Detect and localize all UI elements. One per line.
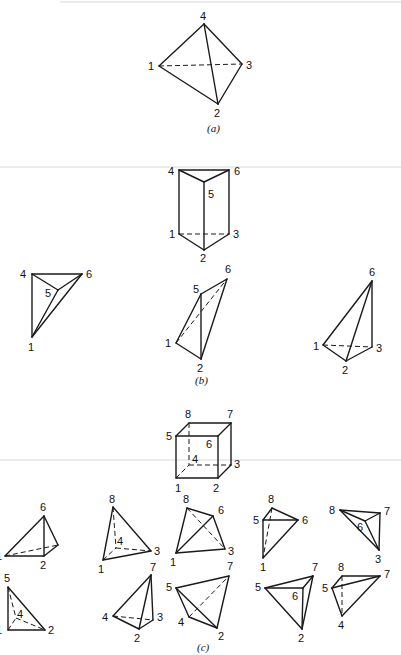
- tetra-c1-4: 8 5 6 1: [253, 493, 308, 573]
- node-label: 8: [338, 561, 344, 573]
- node-label: 6: [302, 514, 308, 526]
- node-label: 3: [233, 228, 239, 240]
- node-label: 4: [200, 10, 206, 22]
- tetra-c2-2: 7 4 3 2: [102, 561, 163, 644]
- node-label: 8: [183, 493, 189, 505]
- node-label: 5: [45, 287, 51, 299]
- prism-b: 4 6 5 1 3 2: [168, 165, 240, 264]
- node-label: 4: [338, 619, 344, 631]
- node-label: 4: [178, 616, 184, 628]
- node-label: 5: [4, 572, 10, 584]
- node-label: 2: [200, 252, 206, 264]
- node-label: 8: [109, 493, 115, 505]
- node-label: 3: [234, 458, 240, 470]
- node-label: 2: [298, 632, 304, 644]
- node-label: 2: [197, 362, 203, 374]
- node-label: 5: [255, 581, 261, 593]
- node-label: 3: [376, 342, 382, 354]
- node-label: 6: [86, 268, 92, 280]
- node-label: 1: [175, 482, 181, 494]
- tetra-c2-3: 7 5 4 2 (c): [166, 560, 233, 654]
- node-label: 2: [213, 482, 219, 494]
- node-label: 1: [0, 550, 2, 562]
- node-label: 4: [168, 165, 174, 177]
- node-label: 5: [208, 188, 214, 200]
- node-label: 1: [165, 337, 171, 349]
- node-label: 1: [0, 624, 2, 636]
- cube-c: 8 7 5 6 4 3 1 2: [166, 408, 240, 494]
- node-label: 5: [166, 581, 172, 593]
- node-label: 1: [28, 341, 34, 353]
- node-label: 6: [369, 266, 375, 278]
- node-label: 1: [313, 340, 319, 352]
- finite-element-decomposition-diagram: 4 1 3 2 (a) 4 6 5 1 3 2 4 6 5 1: [0, 0, 401, 655]
- node-label: 7: [150, 561, 156, 573]
- tetra-c1-1: 6 1 2: [0, 501, 58, 571]
- node-label: 1: [169, 228, 175, 240]
- tetra-c2-1: 5 4 1 2: [0, 572, 54, 636]
- node-label: 2: [40, 559, 46, 571]
- tetra-c1-5: 8 7 6 3: [329, 504, 390, 565]
- node-label: 4: [192, 453, 198, 465]
- node-label: 3: [228, 545, 234, 557]
- node-label: 7: [384, 505, 390, 517]
- node-label: 5: [193, 283, 199, 295]
- node-label: 3: [154, 545, 160, 557]
- node-label: 1: [98, 563, 104, 575]
- node-label: 1: [260, 561, 266, 573]
- node-label: 2: [214, 107, 220, 119]
- node-label: 6: [40, 501, 46, 513]
- node-label: 4: [102, 611, 108, 623]
- tetra-c1-3: 8 6 1 3: [170, 493, 234, 568]
- node-label: 6: [292, 590, 298, 602]
- node-label: 5: [253, 514, 259, 526]
- tetra-c2-5: 8 7 5 4: [322, 561, 390, 631]
- node-label: 8: [329, 504, 335, 516]
- node-label: 3: [246, 59, 252, 71]
- node-label: 7: [384, 568, 390, 580]
- node-label: 6: [225, 263, 231, 275]
- node-label: 6: [234, 165, 240, 177]
- node-label: 4: [117, 535, 123, 547]
- node-label: 6: [218, 504, 224, 516]
- node-label: 8: [185, 408, 191, 420]
- node-label: 6: [357, 521, 363, 533]
- tetra-c2-4: 7 5 6 2: [255, 561, 318, 644]
- node-label: 5: [322, 582, 328, 594]
- node-label: 7: [227, 408, 233, 420]
- node-label: 1: [148, 60, 154, 72]
- node-label: 4: [17, 608, 23, 620]
- node-label: 2: [48, 624, 54, 636]
- node-label: 1: [170, 556, 176, 568]
- node-label: 7: [312, 561, 318, 573]
- caption-b: (b): [195, 374, 208, 387]
- node-label: 4: [20, 268, 26, 280]
- node-label: 5: [166, 430, 172, 442]
- node-label: 3: [157, 611, 163, 623]
- tetra-b2: 5 6 1 2: [165, 263, 231, 374]
- caption-c: (c): [197, 641, 210, 654]
- tetrahedron-a: 4 1 3 2 (a): [148, 10, 252, 135]
- node-label: 3: [375, 553, 381, 565]
- node-label: 2: [342, 364, 348, 376]
- node-label: 8: [268, 493, 274, 505]
- node-label: 6: [206, 438, 212, 450]
- node-label: 2: [134, 632, 140, 644]
- tetra-b1: 4 6 5 1: [20, 268, 92, 353]
- node-label: 2: [218, 630, 224, 642]
- node-label: 7: [227, 560, 233, 572]
- caption-a: (a): [207, 122, 220, 135]
